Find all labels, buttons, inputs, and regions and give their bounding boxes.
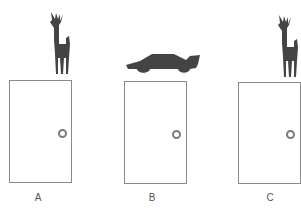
door-knob-icon [58,129,67,138]
door-a[interactable] [9,80,72,183]
car-icon [124,52,202,76]
goat-icon [276,13,301,79]
door-knob-icon [286,130,295,139]
door-knob-icon [172,130,181,139]
door-c[interactable] [238,82,301,184]
door-label-b: B [142,192,162,203]
door-label-a: A [28,192,48,203]
door-b[interactable] [124,81,187,184]
goat-icon [48,10,74,76]
door-label-c: C [260,192,280,203]
